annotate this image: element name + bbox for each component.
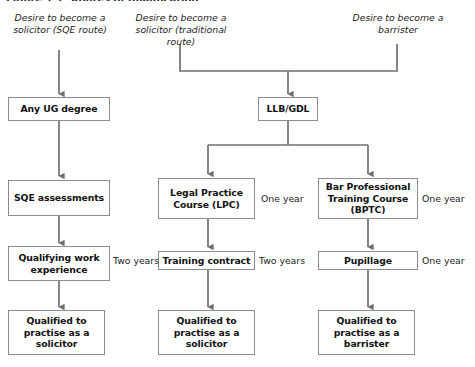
- node-qualified-barrister[interactable]: Qualified to practise as a barrister: [318, 310, 415, 355]
- node-training-contract[interactable]: Training contract: [158, 251, 255, 270]
- node-bptc[interactable]: Bar Professional Training Course (BPTC): [318, 178, 418, 219]
- node-qualifying-work-experience[interactable]: Qualifying work experience: [8, 246, 110, 281]
- node-llb-gdl[interactable]: LLB/GDL: [258, 97, 318, 121]
- node-bptc-label: Bar Professional Training Course (BPTC): [319, 181, 417, 216]
- figure-title: Figure 1.1: Routes of qualification: [6, 0, 198, 1]
- node-sqe-assessments[interactable]: SQE assessments: [8, 180, 110, 216]
- flowchart-canvas: Figure 1.1: Routes of qualification: [0, 0, 475, 367]
- node-qualified-solicitor-traditional[interactable]: Qualified to practise as a solicitor: [158, 310, 255, 355]
- node-qualified-solicitor-sqe[interactable]: Qualified to practise as a solicitor: [8, 310, 105, 355]
- node-qualified-barrister-label: Qualified to practise as a barrister: [319, 315, 414, 350]
- duration-label-qualifying-work-experience: Two years: [113, 255, 159, 267]
- node-lpc-label: Legal Practice Course (LPC): [159, 187, 254, 210]
- node-qualified-solicitor-traditional-label: Qualified to practise as a solicitor: [159, 315, 254, 350]
- node-pupillage[interactable]: Pupillage: [318, 251, 418, 270]
- duration-label-lpc: One year: [261, 193, 304, 205]
- node-training-contract-label: Training contract: [161, 255, 253, 267]
- node-sqe-assessments-label: SQE assessments: [12, 192, 106, 204]
- header-barrister: Desire to become a barrister: [345, 12, 451, 36]
- duration-label-training-contract: Two years: [259, 255, 305, 267]
- node-qualifying-work-experience-label: Qualifying work experience: [9, 252, 109, 275]
- node-any-ug-degree[interactable]: Any UG degree: [8, 97, 110, 121]
- node-pupillage-label: Pupillage: [342, 255, 394, 267]
- duration-label-pupillage: One year: [422, 255, 465, 267]
- node-lpc[interactable]: Legal Practice Course (LPC): [158, 178, 255, 219]
- node-llb-gdl-label: LLB/GDL: [265, 103, 312, 115]
- duration-label-bptc: One year: [422, 193, 465, 205]
- header-solicitor-sqe-route: Desire to become a solicitor (SQE route): [6, 12, 114, 36]
- node-any-ug-degree-label: Any UG degree: [18, 103, 99, 115]
- node-qualified-solicitor-sqe-label: Qualified to practise as a solicitor: [9, 315, 104, 350]
- header-solicitor-traditional-route: Desire to become a solicitor (traditiona…: [124, 12, 238, 48]
